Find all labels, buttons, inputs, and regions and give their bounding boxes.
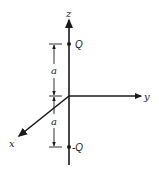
charge-neg-q-label: -Q [72, 142, 83, 153]
dimension-marker [49, 44, 62, 147]
z-axis-label: z [65, 8, 72, 19]
charge-neg-q-dot [67, 145, 71, 149]
dipole-diagram: z y x Q -Q a a [0, 0, 159, 180]
distance-upper-label: a [51, 65, 57, 76]
x-axis [19, 96, 69, 136]
charge-q-dot [67, 42, 71, 46]
distance-lower-label: a [51, 116, 57, 127]
y-axis-label: y [143, 91, 150, 102]
charge-q-label: Q [75, 39, 83, 50]
x-axis-label: x [9, 138, 15, 149]
